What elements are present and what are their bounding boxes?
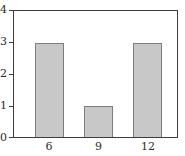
bar-chart-figure: 01234 6912: [0, 0, 185, 156]
x-tick-label-9: 9: [95, 141, 102, 153]
plot-area: [13, 10, 178, 138]
bar-6: [35, 43, 65, 138]
y-tick-label-0: 0: [0, 132, 7, 144]
x-tick-label-12: 12: [141, 141, 155, 153]
x-tick-label-6: 6: [45, 141, 52, 153]
x-axis: 6912: [13, 139, 178, 156]
bar-9: [84, 106, 114, 138]
y-tick-label-3: 3: [0, 36, 7, 48]
y-tick-label-4: 4: [0, 4, 7, 16]
y-tick-label-1: 1: [0, 100, 7, 112]
bar-12: [133, 43, 163, 138]
y-axis: 01234: [0, 10, 13, 138]
y-tick-label-2: 2: [0, 68, 7, 80]
